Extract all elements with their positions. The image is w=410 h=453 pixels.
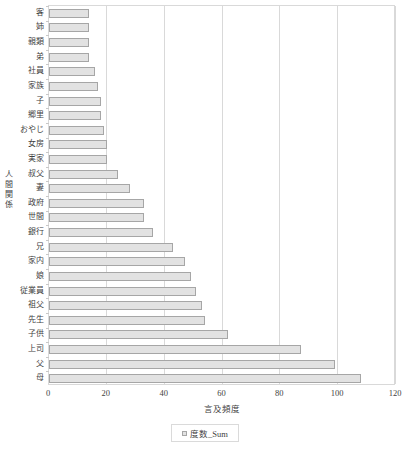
category-label: 上司	[28, 344, 44, 353]
axis-tick	[46, 6, 49, 7]
category-label: 祖父	[28, 300, 44, 309]
bar	[49, 67, 95, 76]
category-label: 社員	[28, 66, 44, 75]
category-axis: 客姉親類弟社員家族子郷里おやじ女房実家叔父妻政府世間銀行兄家内娘従業員祖父先生子…	[16, 5, 46, 385]
category-label: 先生	[28, 315, 44, 324]
category-label: 娘	[36, 271, 44, 280]
y-axis-title: 人間関係	[2, 170, 16, 210]
axis-tick	[46, 328, 49, 329]
bar	[49, 316, 205, 325]
axis-tick	[46, 357, 49, 358]
axis-tick	[46, 64, 49, 65]
bar	[49, 345, 301, 354]
gridline	[106, 6, 107, 384]
bar	[49, 330, 228, 339]
axis-tick	[46, 225, 49, 226]
category-label: 妻	[36, 183, 44, 192]
category-label: 政府	[28, 198, 44, 207]
y-axis-title-char: 人	[2, 170, 16, 180]
legend-label: 度数_Sum	[190, 427, 228, 439]
x-tick-label: 20	[102, 388, 111, 399]
x-axis-title: 言及頻度	[48, 402, 395, 414]
category-label: 母	[36, 373, 44, 382]
y-axis-title-char: 係	[2, 200, 16, 210]
bar	[49, 184, 130, 193]
x-tick-label: 100	[331, 388, 344, 399]
category-label: 兄	[36, 242, 44, 251]
bar	[49, 111, 101, 120]
axis-tick	[46, 123, 49, 124]
bar	[49, 170, 118, 179]
bar	[49, 287, 196, 296]
x-tick-label: 80	[275, 388, 284, 399]
category-label: 子供	[28, 329, 44, 338]
x-tick-label: 120	[389, 388, 402, 399]
category-label: 子	[36, 96, 44, 105]
x-tick-label: 40	[159, 388, 168, 399]
axis-tick	[46, 138, 49, 139]
bar	[49, 360, 335, 369]
category-label: 親類	[28, 37, 44, 46]
gridline	[395, 6, 396, 384]
legend-swatch-icon	[182, 431, 187, 436]
category-label: 実家	[28, 154, 44, 163]
category-label: おやじ	[20, 125, 44, 134]
bar	[49, 140, 107, 149]
bar	[49, 38, 89, 47]
gridline	[279, 6, 280, 384]
gridline	[337, 6, 338, 384]
bar-chart: 人間関係 客姉親類弟社員家族子郷里おやじ女房実家叔父妻政府世間銀行兄家内娘従業員…	[0, 0, 410, 453]
x-tick-label: 0	[46, 388, 50, 399]
category-label: 弟	[36, 52, 44, 61]
axis-tick	[46, 94, 49, 95]
axis-tick	[46, 284, 49, 285]
bar	[49, 155, 107, 164]
category-label: 家族	[28, 81, 44, 90]
x-tick-label: 60	[217, 388, 226, 399]
axis-tick	[46, 211, 49, 212]
bar	[49, 243, 173, 252]
bar	[49, 82, 98, 91]
y-axis-title-char: 関	[2, 190, 16, 200]
bar	[49, 23, 89, 32]
plot-area	[48, 5, 395, 385]
bar	[49, 199, 144, 208]
bar	[49, 126, 104, 135]
category-label: 女房	[28, 139, 44, 148]
axis-tick	[46, 50, 49, 51]
axis-tick	[46, 108, 49, 109]
axis-tick	[46, 342, 49, 343]
bar	[49, 257, 185, 266]
category-label: 客	[36, 8, 44, 17]
axis-tick	[46, 152, 49, 153]
bar	[49, 97, 101, 106]
axis-tick	[46, 298, 49, 299]
bar	[49, 272, 191, 281]
axis-tick	[46, 313, 49, 314]
legend-box: 度数_Sum	[171, 424, 239, 442]
bar	[49, 374, 361, 383]
axis-tick	[46, 167, 49, 168]
axis-tick	[46, 240, 49, 241]
axis-tick	[46, 196, 49, 197]
category-label: 世間	[28, 212, 44, 221]
category-label: 姉	[36, 22, 44, 31]
y-axis-title-char: 間	[2, 180, 16, 190]
bar	[49, 9, 89, 18]
category-label: 叔父	[28, 169, 44, 178]
axis-tick	[46, 35, 49, 36]
legend: 度数_Sum	[0, 424, 410, 442]
axis-tick	[46, 269, 49, 270]
gridline	[164, 6, 165, 384]
axis-tick	[46, 371, 49, 372]
gridline	[222, 6, 223, 384]
axis-tick	[46, 181, 49, 182]
bar	[49, 53, 89, 62]
axis-tick	[46, 254, 49, 255]
category-label: 郷里	[28, 110, 44, 119]
bar	[49, 301, 202, 310]
category-label: 父	[36, 359, 44, 368]
axis-tick	[46, 21, 49, 22]
x-axis-ticks: 020406080100120	[0, 388, 410, 402]
bar	[49, 228, 153, 237]
